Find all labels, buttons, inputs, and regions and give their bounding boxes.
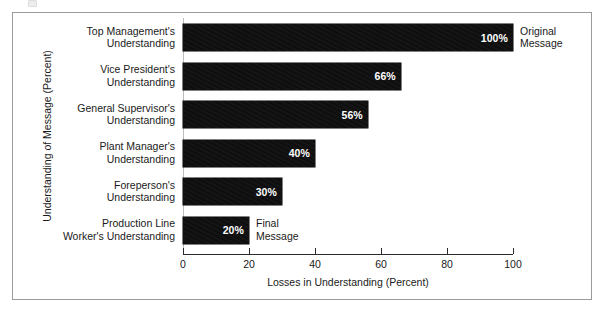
x-axis-tick: [513, 248, 514, 254]
category-label-line2: Understanding: [100, 76, 175, 89]
y-axis-title: Understanding of Message (Percent): [41, 11, 53, 261]
bar[interactable]: 100%: [183, 24, 513, 51]
category-label: Top Management'sUnderstanding: [87, 25, 175, 50]
x-axis-tick: [183, 248, 184, 254]
bar-annotation-line2: Message: [256, 230, 299, 243]
category-label-line1: Production Line: [63, 217, 175, 230]
bar-annotation: FinalMessage: [256, 217, 299, 242]
category-label: Vice President'sUnderstanding: [100, 63, 175, 88]
category-label-line2: Worker's Understanding: [63, 230, 175, 243]
bar[interactable]: 66%: [183, 63, 401, 90]
x-axis-tick: [249, 248, 250, 254]
x-axis-tick-label: 80: [427, 258, 467, 270]
category-label-line1: General Supervisor's: [77, 102, 175, 115]
bar[interactable]: 40%: [183, 140, 315, 167]
bar[interactable]: 20%: [183, 217, 249, 244]
category-label: Foreperson'sUnderstanding: [107, 179, 175, 204]
x-axis-title: Losses in Understanding (Percent): [183, 276, 513, 288]
bar-row: Production LineWorker's Understanding20%…: [183, 217, 513, 244]
category-label-line2: Understanding: [77, 115, 175, 128]
bar-value-label: 40%: [289, 147, 310, 159]
category-label-line1: Vice President's: [100, 63, 175, 76]
chart-figure: Understanding of Message (Percent) Top M…: [0, 0, 604, 315]
bar-annotation-line1: Original: [520, 25, 563, 38]
bar-value-label: 20%: [223, 224, 244, 236]
category-label-line2: Understanding: [99, 153, 175, 166]
bar-value-label: 56%: [341, 109, 362, 121]
category-label-line2: Understanding: [87, 38, 175, 51]
bar[interactable]: 56%: [183, 101, 368, 128]
bar-annotation-line1: Final: [256, 217, 299, 230]
category-label: Production LineWorker's Understanding: [63, 217, 175, 242]
bar-value-label: 100%: [481, 32, 508, 44]
x-axis-tick: [315, 248, 316, 254]
x-axis-tick: [381, 248, 382, 254]
bar-value-label: 66%: [374, 70, 395, 82]
bar-row: General Supervisor'sUnderstanding56%: [183, 101, 513, 128]
bar-value-label: 30%: [256, 186, 277, 198]
bar-row: Vice President'sUnderstanding66%: [183, 63, 513, 90]
x-axis-tick-label: 20: [229, 258, 269, 270]
x-axis-tick-label: 100: [493, 258, 533, 270]
category-label-line1: Plant Manager's: [99, 140, 175, 153]
category-label-line2: Understanding: [107, 192, 175, 205]
x-axis-tick-label: 60: [361, 258, 401, 270]
bar-annotation: OriginalMessage: [520, 25, 563, 50]
category-label: Plant Manager'sUnderstanding: [99, 140, 175, 165]
bar-row: Foreperson'sUnderstanding30%: [183, 178, 513, 205]
category-label-line1: Top Management's: [87, 25, 175, 38]
x-axis-tick-label: 40: [295, 258, 335, 270]
page-artifact-mark: [28, 0, 37, 7]
category-label: General Supervisor'sUnderstanding: [77, 102, 175, 127]
x-axis-tick: [447, 248, 448, 254]
bar[interactable]: 30%: [183, 178, 282, 205]
x-axis-tick-label: 0: [163, 258, 203, 270]
bar-row: Top Management'sUnderstanding100%Origina…: [183, 24, 513, 51]
category-label-line1: Foreperson's: [107, 179, 175, 192]
bar-row: Plant Manager'sUnderstanding40%: [183, 140, 513, 167]
plot-area: Top Management'sUnderstanding100%Origina…: [183, 18, 513, 254]
bar-annotation-line2: Message: [520, 38, 563, 51]
x-axis-line: [183, 254, 513, 255]
